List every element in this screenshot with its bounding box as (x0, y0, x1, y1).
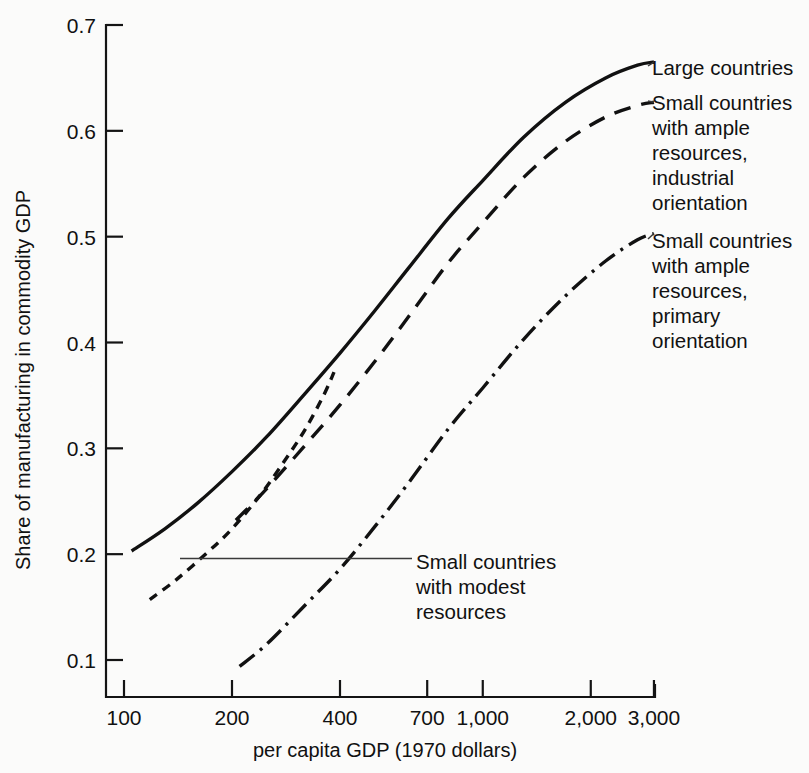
y-tick-label: 0.7 (67, 14, 96, 37)
legend-line: with ample (652, 115, 792, 140)
series-line-2 (150, 372, 334, 600)
legend-large-countries: Large countries (652, 55, 793, 80)
legend-line: resources, (652, 140, 792, 165)
leader-lines (180, 62, 654, 558)
legend-line: Small countries (652, 228, 792, 253)
x-tick-label: 400 (322, 706, 357, 729)
legend-line: Small countries (652, 90, 792, 115)
y-tick-label: 0.1 (67, 649, 96, 672)
annotation-line: with modest (416, 574, 556, 599)
x-tick-label: 2,000 (564, 706, 617, 729)
x-tick-label: 700 (410, 706, 445, 729)
x-tick-marks (124, 680, 654, 697)
legend-line: primary (652, 303, 792, 328)
chart-page: 0.10.20.30.40.50.60.7 1002004007001,0002… (0, 0, 809, 773)
legend-small-ample-industrial: Small countries with ample resources, in… (652, 90, 792, 215)
y-tick-label: 0.2 (67, 543, 96, 566)
axis-lines (106, 25, 655, 697)
legend-line: orientation (652, 190, 792, 215)
annotation-small-modest-resources: Small countries with modest resources (416, 549, 556, 624)
y-tick-labels: 0.10.20.30.40.50.60.7 (67, 14, 97, 672)
y-tick-marks (106, 25, 123, 660)
series-line-1 (236, 102, 654, 520)
y-tick-label: 0.4 (67, 332, 97, 355)
y-tick-label: 0.5 (67, 226, 96, 249)
y-tick-label: 0.3 (67, 437, 96, 460)
y-axis-title: Share of manufacturing in commodity GDP (12, 190, 34, 570)
x-axis-title: per capita GDP (1970 dollars) (253, 739, 517, 761)
legend-line: industrial (652, 165, 792, 190)
legend-line: resources, (652, 278, 792, 303)
x-tick-label: 1,000 (456, 706, 509, 729)
x-tick-label: 200 (214, 706, 249, 729)
axes-group (106, 25, 655, 697)
legend-line: orientation (652, 328, 792, 353)
x-tick-label: 3,000 (628, 706, 681, 729)
series-group (132, 62, 654, 666)
annotation-line: resources (416, 599, 556, 624)
y-tick-label: 0.6 (67, 120, 96, 143)
legend-line: with ample (652, 253, 792, 278)
x-tick-label: 100 (106, 706, 141, 729)
legend-small-ample-primary: Small countries with ample resources, pr… (652, 228, 792, 353)
x-tick-labels: 1002004007001,0002,0003,000 (106, 706, 680, 729)
legend-line: Large countries (652, 55, 793, 80)
annotation-line: Small countries (416, 549, 556, 574)
